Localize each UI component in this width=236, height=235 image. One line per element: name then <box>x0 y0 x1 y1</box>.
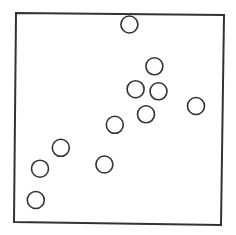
data-point-marker <box>27 192 44 209</box>
scatter-plot-svg <box>0 0 236 235</box>
data-point-marker <box>127 81 144 98</box>
data-point-marker <box>32 160 49 177</box>
data-point-marker <box>121 16 138 33</box>
data-point-marker <box>188 98 205 115</box>
data-point-marker <box>106 116 123 133</box>
scatter-chart <box>0 0 236 235</box>
data-point-marker <box>138 106 155 123</box>
data-point-marker <box>146 58 163 75</box>
data-markers <box>27 16 204 209</box>
data-point-marker <box>52 139 69 156</box>
data-point-marker <box>150 83 167 100</box>
data-point-marker <box>96 156 113 173</box>
